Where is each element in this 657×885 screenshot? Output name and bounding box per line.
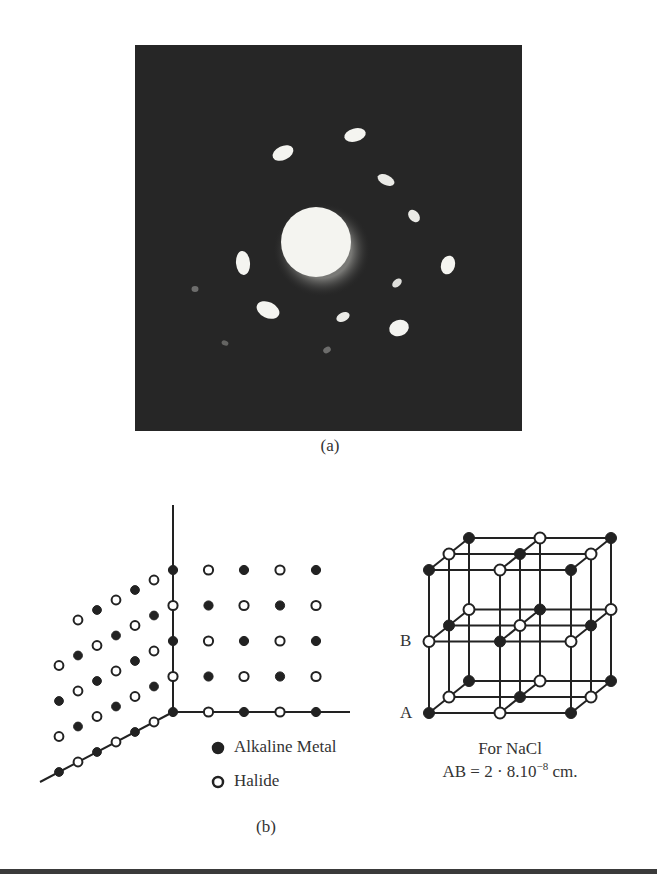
alkaline-metal-atom bbox=[239, 565, 248, 574]
halide-atom bbox=[131, 692, 140, 701]
legend-open-circle-icon bbox=[213, 777, 223, 787]
alkaline-metal-atom bbox=[93, 606, 102, 615]
alkaline-metal-atom bbox=[150, 611, 159, 620]
halide-atom bbox=[515, 620, 526, 631]
alkaline-metal-atom bbox=[239, 707, 248, 716]
halide-atom bbox=[204, 636, 213, 645]
halide-atom bbox=[464, 604, 475, 615]
halide-atom bbox=[424, 636, 435, 647]
figure-b-caption: (b) bbox=[236, 817, 296, 837]
halide-atom bbox=[495, 708, 506, 719]
alkaline-metal-atom bbox=[131, 657, 140, 666]
halide-atom bbox=[586, 549, 597, 560]
cube-note-line2: AB = 2 · 8.10−8 cm. bbox=[420, 760, 600, 782]
cube-label-b: B bbox=[400, 631, 411, 651]
cube-label-a: A bbox=[400, 703, 412, 723]
halide-atom bbox=[112, 667, 121, 676]
diffraction-spot bbox=[192, 286, 199, 292]
halide-atom bbox=[74, 758, 83, 767]
alkaline-metal-atom bbox=[204, 601, 213, 610]
halide-atom bbox=[74, 616, 83, 625]
alkaline-metal-atom bbox=[55, 768, 64, 777]
halide-atom bbox=[112, 596, 121, 605]
alkaline-metal-atom bbox=[204, 672, 213, 681]
halide-atom bbox=[239, 672, 248, 681]
alkaline-metal-atom bbox=[275, 601, 284, 610]
alkaline-metal-atom bbox=[150, 682, 159, 691]
cube-note-prefix: AB = 2 · 8.10 bbox=[442, 762, 536, 781]
central-beam-spot bbox=[281, 207, 351, 277]
halide-atom bbox=[566, 636, 577, 647]
diffraction-pattern-image bbox=[135, 45, 522, 431]
alkaline-metal-atom bbox=[275, 672, 284, 681]
halide-atom bbox=[586, 692, 597, 703]
halide-atom bbox=[239, 601, 248, 610]
alkaline-metal-atom bbox=[311, 707, 320, 716]
alkaline-metal-atom bbox=[93, 748, 102, 757]
halide-atom bbox=[168, 601, 177, 610]
alkaline-metal-atom bbox=[464, 676, 475, 687]
halide-atom bbox=[150, 576, 159, 585]
alkaline-metal-atom bbox=[168, 565, 177, 574]
alkaline-metal-atom bbox=[444, 620, 455, 631]
alkaline-metal-atom bbox=[311, 565, 320, 574]
alkaline-metal-atom bbox=[424, 565, 435, 576]
halide-atom bbox=[150, 647, 159, 656]
alkaline-metal-atom bbox=[535, 604, 546, 615]
halide-atom bbox=[535, 676, 546, 687]
alkaline-metal-atom bbox=[74, 651, 83, 660]
halide-atom bbox=[275, 636, 284, 645]
alkaline-metal-atom bbox=[131, 586, 140, 595]
alkaline-metal-atom bbox=[566, 708, 577, 719]
alkaline-metal-atom bbox=[168, 636, 177, 645]
legend-filled-circle-icon bbox=[213, 743, 224, 754]
halide-atom bbox=[444, 692, 455, 703]
halide-atom bbox=[93, 641, 102, 650]
alkaline-metal-atom bbox=[606, 676, 617, 687]
cube-note-suffix: cm. bbox=[548, 762, 577, 781]
halide-atom bbox=[150, 718, 159, 727]
legend-halide-label: Halide bbox=[234, 771, 279, 791]
legend-alkaline-metal-label: Alkaline Metal bbox=[234, 737, 336, 757]
alkaline-metal-atom bbox=[131, 728, 140, 737]
alkaline-metal-atom bbox=[515, 549, 526, 560]
alkaline-metal-atom bbox=[311, 636, 320, 645]
alkaline-metal-atom bbox=[515, 692, 526, 703]
halide-atom bbox=[55, 732, 64, 741]
alkaline-metal-atom bbox=[464, 533, 475, 544]
bottom-rule-divider bbox=[0, 869, 657, 874]
alkaline-metal-atom bbox=[74, 722, 83, 731]
halide-atom bbox=[204, 707, 213, 716]
alkaline-metal-atom bbox=[566, 565, 577, 576]
halide-atom bbox=[535, 533, 546, 544]
alkaline-metal-atom bbox=[586, 620, 597, 631]
figure-a-caption: (a) bbox=[300, 436, 360, 456]
alkaline-metal-atom bbox=[55, 697, 64, 706]
alkaline-metal-atom bbox=[93, 677, 102, 686]
alkaline-metal-atom bbox=[606, 533, 617, 544]
halide-atom bbox=[93, 712, 102, 721]
cube-note-line1: For NaCl bbox=[440, 739, 580, 759]
halide-atom bbox=[606, 604, 617, 615]
alkaline-metal-atom bbox=[112, 702, 121, 711]
nacl-unit-cell-cube bbox=[424, 533, 617, 719]
halide-atom bbox=[204, 565, 213, 574]
halide-atom bbox=[74, 687, 83, 696]
alkaline-metal-atom bbox=[239, 636, 248, 645]
alkaline-metal-atom bbox=[168, 707, 177, 716]
halide-atom bbox=[168, 672, 177, 681]
halide-atom bbox=[131, 621, 140, 630]
halide-atom bbox=[55, 661, 64, 670]
halide-atom bbox=[311, 672, 320, 681]
alkaline-metal-atom bbox=[112, 631, 121, 640]
cube-note-exponent: −8 bbox=[537, 760, 549, 772]
halide-atom bbox=[311, 601, 320, 610]
halide-atom bbox=[275, 565, 284, 574]
alkaline-metal-atom bbox=[495, 636, 506, 647]
halide-atom bbox=[444, 549, 455, 560]
halide-atom bbox=[495, 565, 506, 576]
alkaline-metal-atom bbox=[424, 708, 435, 719]
halide-atom bbox=[112, 738, 121, 747]
halide-atom bbox=[275, 707, 284, 716]
